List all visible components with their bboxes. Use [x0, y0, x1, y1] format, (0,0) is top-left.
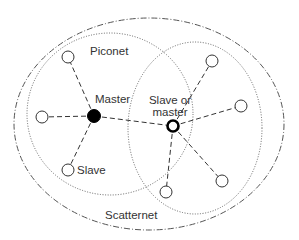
scatternet-diagram: [0, 0, 299, 240]
slave-node-icon: [62, 164, 74, 176]
slave-nodes: [36, 51, 247, 198]
piconet-label: Piconet: [90, 45, 128, 58]
slave-node-icon: [206, 55, 218, 67]
slave-node-icon: [36, 111, 48, 123]
link-master-s3: [68, 116, 94, 170]
link-bridge-s6: [173, 126, 222, 181]
master-label: Master: [95, 93, 130, 106]
link-bridge-s7: [166, 126, 173, 192]
master-node-icon: [88, 110, 101, 123]
slave-node-icon: [235, 100, 247, 112]
piconet-right-boundary: [128, 42, 262, 214]
slave-node-icon: [160, 186, 172, 198]
scatternet-label: Scatternet: [105, 209, 157, 222]
link-master-s2: [42, 116, 94, 117]
slave-or-master-label-line2: master: [145, 106, 195, 119]
link-master-s1: [68, 57, 94, 116]
slave-node-icon: [62, 51, 74, 63]
slave-node-icon: [216, 175, 228, 187]
slave-or-master-node-icon: [168, 121, 179, 132]
scatternet-boundary: [14, 18, 284, 230]
slave-label: Slave: [77, 164, 106, 177]
